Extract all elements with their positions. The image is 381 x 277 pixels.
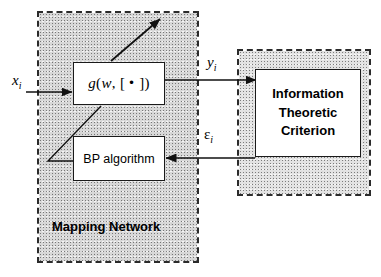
x-symbol: x xyxy=(12,72,19,88)
error-signal-label: εi xyxy=(204,126,213,145)
bullet-icon: • xyxy=(125,75,139,90)
criterion-line-2: Theoretic xyxy=(279,105,338,120)
w-symbol: w xyxy=(101,75,111,91)
mapping-network-caption: Mapping Network xyxy=(52,219,160,234)
block-diagram: g(w, [•]) BP algorithm Information Theor… xyxy=(0,0,381,277)
criterion-block: Information Theoretic Criterion xyxy=(255,69,361,157)
output-signal-label: yi xyxy=(207,54,216,73)
g-function-block: g(w, [•]) xyxy=(73,62,165,105)
y-symbol: y xyxy=(207,54,214,70)
criterion-line-3: Criterion xyxy=(281,123,335,138)
x-subscript: i xyxy=(19,80,22,91)
close-paren: ) xyxy=(144,75,149,91)
criterion-line-1: Information xyxy=(272,86,344,101)
g-function-expression: g(w, [•]) xyxy=(88,75,149,92)
bp-algorithm-label: BP algorithm xyxy=(83,152,154,166)
input-signal-label: xi xyxy=(12,72,21,91)
y-subscript: i xyxy=(214,62,217,73)
bp-algorithm-block: BP algorithm xyxy=(73,136,165,181)
weight-adaptation-arrow xyxy=(111,19,160,61)
criterion-label: Information Theoretic Criterion xyxy=(272,85,344,142)
g-symbol: g xyxy=(88,75,96,91)
comma: , xyxy=(112,75,116,91)
epsilon-subscript: i xyxy=(210,134,213,145)
